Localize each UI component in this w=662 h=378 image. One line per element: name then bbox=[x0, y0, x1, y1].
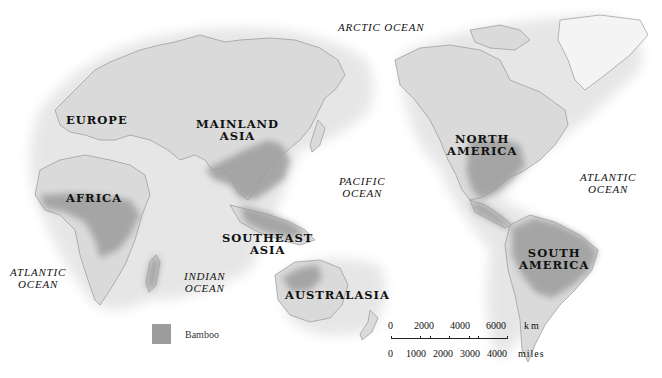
label-mainland-asia: MAINLAND ASIA bbox=[196, 118, 279, 142]
label-atlantic-east-line2: OCEAN bbox=[580, 184, 636, 196]
label-atlantic-ocean-east: ATLANTIC OCEAN bbox=[580, 172, 636, 195]
label-europe: EUROPE bbox=[66, 114, 128, 126]
label-atlantic-west-line2: OCEAN bbox=[10, 279, 66, 291]
label-pacific-line1: PACIFIC bbox=[339, 176, 385, 188]
scale-tick bbox=[507, 336, 508, 339]
label-arctic-text: ARCTIC OCEAN bbox=[338, 21, 424, 33]
map-legend: Bamboo bbox=[152, 324, 219, 344]
scale-miles-unit: miles bbox=[518, 348, 545, 359]
label-africa-text: AFRICA bbox=[66, 191, 122, 205]
label-arctic-ocean: ARCTIC OCEAN bbox=[338, 22, 424, 34]
label-atlantic-east-line1: ATLANTIC bbox=[580, 172, 636, 184]
scale-tick bbox=[430, 336, 431, 339]
label-indian-line2: OCEAN bbox=[184, 283, 225, 295]
label-africa: AFRICA bbox=[66, 192, 122, 204]
scale-mi-4000: 4000 bbox=[487, 348, 507, 359]
scale-tick bbox=[469, 336, 470, 339]
label-asia-text: ASIA bbox=[196, 130, 279, 142]
label-atlantic-west-line1: ATLANTIC bbox=[10, 267, 66, 279]
label-europe-text: EUROPE bbox=[66, 113, 128, 127]
label-indian-ocean: INDIAN OCEAN bbox=[184, 271, 225, 294]
scale-mi-1000: 1000 bbox=[406, 348, 426, 359]
label-australasia-text: AUSTRALASIA bbox=[285, 288, 390, 302]
label-australasia: AUSTRALASIA bbox=[285, 289, 390, 301]
scale-mi-3000: 3000 bbox=[460, 348, 480, 359]
scale-tick bbox=[449, 336, 450, 339]
label-se-asia-text: ASIA bbox=[222, 244, 313, 256]
label-atlantic-ocean-west: ATLANTIC OCEAN bbox=[10, 267, 66, 290]
scale-km-4000: 4000 bbox=[450, 320, 470, 331]
label-sa-america-text: AMERICA bbox=[519, 259, 589, 271]
label-na-america-text: AMERICA bbox=[447, 145, 517, 157]
scale-mi-2000: 2000 bbox=[433, 348, 453, 359]
scale-mi-0: 0 bbox=[388, 348, 393, 359]
scale-tick bbox=[391, 336, 392, 339]
scale-km-2000: 2000 bbox=[414, 320, 434, 331]
scale-km-0: 0 bbox=[388, 320, 393, 331]
label-pacific-ocean: PACIFIC OCEAN bbox=[339, 176, 385, 199]
scale-km-6000: 6000 bbox=[486, 320, 506, 331]
label-south-america: SOUTH AMERICA bbox=[519, 247, 589, 271]
scale-tick bbox=[478, 336, 479, 339]
scale-km-unit: km bbox=[524, 320, 541, 331]
scale-bar: 0 2000 4000 6000 km 0 1000 2000 3000 400… bbox=[386, 320, 566, 364]
legend-label-bamboo: Bamboo bbox=[185, 329, 219, 340]
bamboo-swatch bbox=[152, 324, 171, 344]
scale-tick bbox=[420, 336, 421, 339]
label-pacific-line2: OCEAN bbox=[339, 188, 385, 200]
label-north-america: NORTH AMERICA bbox=[447, 133, 517, 157]
label-indian-line1: INDIAN bbox=[184, 271, 225, 283]
label-southeast-asia: SOUTHEAST ASIA bbox=[222, 232, 313, 256]
